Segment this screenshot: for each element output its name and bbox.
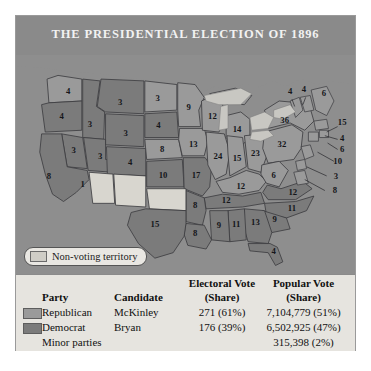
- svg-text:36: 36: [280, 115, 289, 125]
- svg-text:15: 15: [233, 153, 242, 163]
- table-row: Democrat Bryan 176 (39%) 6,502,925 (47%): [16, 320, 355, 335]
- svg-text:3: 3: [155, 93, 160, 103]
- candidate-cell: Bryan: [114, 320, 184, 335]
- svg-text:3: 3: [118, 97, 123, 107]
- party-cell: Minor parties: [42, 335, 114, 350]
- figure-title-bar: THE PRESIDENTIAL ELECTION OF 1896: [16, 16, 355, 55]
- svg-text:13: 13: [251, 217, 260, 227]
- electoral-vote-cell: [184, 335, 260, 350]
- svg-text:4: 4: [128, 157, 133, 167]
- svg-text:8: 8: [333, 185, 338, 195]
- electoral-vote-header-line2: (Share): [184, 291, 260, 304]
- popular-vote-column-header: Popular Vote (Share): [260, 275, 355, 305]
- table-header-row: Party Candidate Electoral Vote (Share) P…: [16, 275, 355, 305]
- party-column-header: Party: [42, 275, 114, 305]
- candidate-column-header: Candidate: [114, 275, 184, 305]
- popular-vote-cell: 315,398 (2%): [260, 335, 355, 350]
- svg-text:4: 4: [302, 84, 307, 94]
- electoral-vote-cell: 176 (39%): [184, 320, 260, 335]
- svg-text:32: 32: [278, 139, 287, 149]
- svg-text:6: 6: [340, 144, 345, 154]
- popular-vote-header-line2: (Share): [260, 291, 347, 304]
- svg-text:10: 10: [159, 170, 168, 180]
- electoral-vote-header-line1: Electoral Vote: [184, 277, 260, 290]
- electoral-vote-cell: 271 (61%): [184, 305, 260, 320]
- popular-vote-cell: 6,502,925 (47%): [260, 320, 355, 335]
- svg-text:8: 8: [160, 144, 165, 154]
- candidate-cell: [114, 335, 184, 350]
- svg-text:4: 4: [340, 133, 345, 143]
- election-map-figure: THE PRESIDENTIAL ELECTION OF 1896: [15, 15, 356, 351]
- svg-text:3: 3: [98, 151, 103, 161]
- svg-text:3: 3: [334, 171, 339, 181]
- svg-text:8: 8: [193, 200, 198, 210]
- popular-vote-header-line1: Popular Vote: [260, 277, 347, 290]
- minor-swatch-cell: [16, 335, 42, 350]
- svg-text:4: 4: [60, 111, 65, 121]
- svg-text:12: 12: [222, 195, 231, 205]
- map-legend: Non-voting territory: [24, 247, 147, 266]
- svg-text:12: 12: [208, 111, 217, 121]
- map-svg: 4 4 3 3 3 3 3 8 4 1 3 4 8 10 9 13 17 15 …: [16, 55, 355, 274]
- us-electoral-map: 4 4 3 3 3 3 3 8 4 1 3 4 8 10 9 13 17 15 …: [16, 55, 355, 274]
- republican-swatch: [23, 308, 42, 319]
- svg-text:10: 10: [333, 156, 342, 166]
- svg-text:9: 9: [217, 220, 222, 230]
- svg-text:4: 4: [272, 246, 277, 256]
- popular-vote-cell: 7,104,779 (51%): [260, 305, 355, 320]
- candidate-cell: McKinley: [114, 305, 184, 320]
- page-title: THE PRESIDENTIAL ELECTION OF 1896: [16, 27, 355, 42]
- svg-text:23: 23: [251, 148, 260, 158]
- map-legend-label: Non-voting territory: [52, 251, 137, 262]
- svg-text:8: 8: [47, 171, 52, 181]
- svg-text:1: 1: [81, 179, 85, 189]
- table-row: Republican McKinley 271 (61%) 7,104,779 …: [16, 305, 355, 320]
- republican-swatch-cell: [16, 305, 42, 320]
- swatch-column-header: [16, 275, 42, 305]
- svg-text:15: 15: [151, 219, 160, 229]
- svg-text:6: 6: [272, 170, 277, 180]
- svg-text:6: 6: [322, 88, 327, 98]
- svg-text:4: 4: [156, 120, 161, 130]
- svg-text:3: 3: [71, 145, 76, 155]
- results-table-body: Republican McKinley 271 (61%) 7,104,779 …: [16, 305, 355, 350]
- svg-text:9: 9: [187, 102, 192, 112]
- svg-text:11: 11: [232, 219, 240, 229]
- svg-text:8: 8: [193, 228, 198, 238]
- democrat-swatch-cell: [16, 320, 42, 335]
- svg-text:12: 12: [236, 181, 245, 191]
- electoral-vote-column-header: Electoral Vote (Share): [184, 275, 260, 305]
- svg-text:9: 9: [272, 214, 277, 224]
- party-cell: Democrat: [42, 320, 114, 335]
- results-table-panel: Party Candidate Electoral Vote (Share) P…: [16, 274, 355, 351]
- svg-text:14: 14: [233, 124, 242, 134]
- party-cell: Republican: [42, 305, 114, 320]
- democrat-swatch: [23, 323, 42, 334]
- svg-text:15: 15: [338, 117, 347, 127]
- table-row: Minor parties 315,398 (2%): [16, 335, 355, 350]
- svg-text:3: 3: [88, 119, 93, 129]
- svg-text:3: 3: [123, 128, 128, 138]
- svg-text:13: 13: [189, 139, 198, 149]
- svg-text:17: 17: [192, 170, 201, 180]
- svg-text:4: 4: [66, 86, 71, 96]
- svg-text:11: 11: [288, 203, 296, 213]
- non-voting-territory-swatch: [30, 251, 47, 262]
- results-table: Party Candidate Electoral Vote (Share) P…: [16, 275, 355, 350]
- results-table-head: Party Candidate Electoral Vote (Share) P…: [16, 275, 355, 305]
- svg-text:4: 4: [288, 86, 293, 96]
- svg-text:24: 24: [214, 151, 223, 161]
- svg-text:12: 12: [289, 187, 298, 197]
